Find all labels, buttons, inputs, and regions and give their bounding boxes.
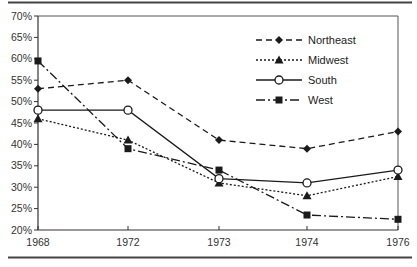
y-tick-label: 45%	[11, 117, 32, 129]
series-midwest	[34, 114, 403, 199]
west-marker-square-icon	[125, 145, 132, 152]
northeast-marker-diamond-icon	[34, 85, 42, 93]
legend-label: Northeast	[308, 34, 356, 46]
northeast-marker-diamond-icon	[303, 145, 311, 153]
legend: NortheastMidwestSouthWest	[256, 34, 356, 106]
y-tick-label: 65%	[11, 31, 32, 43]
west-marker-square-icon	[395, 216, 402, 223]
y-tick-label: 60%	[11, 52, 32, 64]
x-axis: 19681972197319741976	[26, 226, 410, 248]
legend-item-south: South	[256, 74, 337, 86]
y-tick-label: 30%	[11, 181, 32, 193]
x-tick-label: 1972	[116, 236, 140, 248]
south-marker-open-circle-icon	[394, 166, 402, 174]
legend-item-northeast: Northeast	[256, 34, 356, 46]
series-northeast	[34, 76, 402, 152]
northeast-marker-diamond-icon	[394, 128, 402, 136]
south-marker-open-circle-icon	[215, 175, 223, 183]
northeast-marker-diamond-icon	[215, 136, 223, 144]
south-marker-open-circle-icon	[34, 106, 42, 114]
line-chart: 70%65%60%55%50%45%40%35%30%25%20% 196819…	[0, 0, 417, 267]
west-marker-square-icon	[304, 212, 311, 219]
x-tick-label: 1974	[295, 236, 319, 248]
chart-canvas: 70%65%60%55%50%45%40%35%30%25%20% 196819…	[0, 0, 417, 267]
x-tick-label: 1968	[26, 236, 50, 248]
south-marker-open-circle-icon	[124, 106, 132, 114]
y-tick-label: 50%	[11, 95, 32, 107]
x-tick-label: 1973	[207, 236, 231, 248]
legend-item-west: West	[256, 94, 333, 106]
legend-marker-triangle-icon	[275, 56, 284, 64]
plot-frame	[38, 16, 398, 230]
legend-marker-diamond-icon	[275, 36, 283, 44]
legend-item-midwest: Midwest	[256, 54, 348, 66]
y-tick-label: 20%	[11, 224, 32, 236]
y-tick-label: 55%	[11, 74, 32, 86]
legend-marker-open-circle-icon	[275, 76, 283, 84]
y-tick-label: 25%	[11, 202, 32, 214]
legend-label: South	[308, 74, 337, 86]
y-tick-label: 35%	[11, 159, 32, 171]
y-axis: 70%65%60%55%50%45%40%35%30%25%20%	[11, 10, 38, 236]
y-tick-label: 40%	[11, 138, 32, 150]
series-layer	[34, 57, 403, 222]
west-marker-square-icon	[216, 167, 223, 174]
midwest-marker-triangle-icon	[34, 114, 43, 122]
series-south	[34, 106, 402, 187]
legend-marker-square-icon	[276, 97, 283, 104]
northeast-marker-diamond-icon	[124, 76, 132, 84]
south-marker-open-circle-icon	[303, 179, 311, 187]
legend-label: Midwest	[308, 54, 348, 66]
y-tick-label: 70%	[11, 10, 32, 22]
legend-label: West	[308, 94, 333, 106]
west-marker-square-icon	[35, 57, 42, 64]
x-tick-label: 1976	[386, 236, 410, 248]
